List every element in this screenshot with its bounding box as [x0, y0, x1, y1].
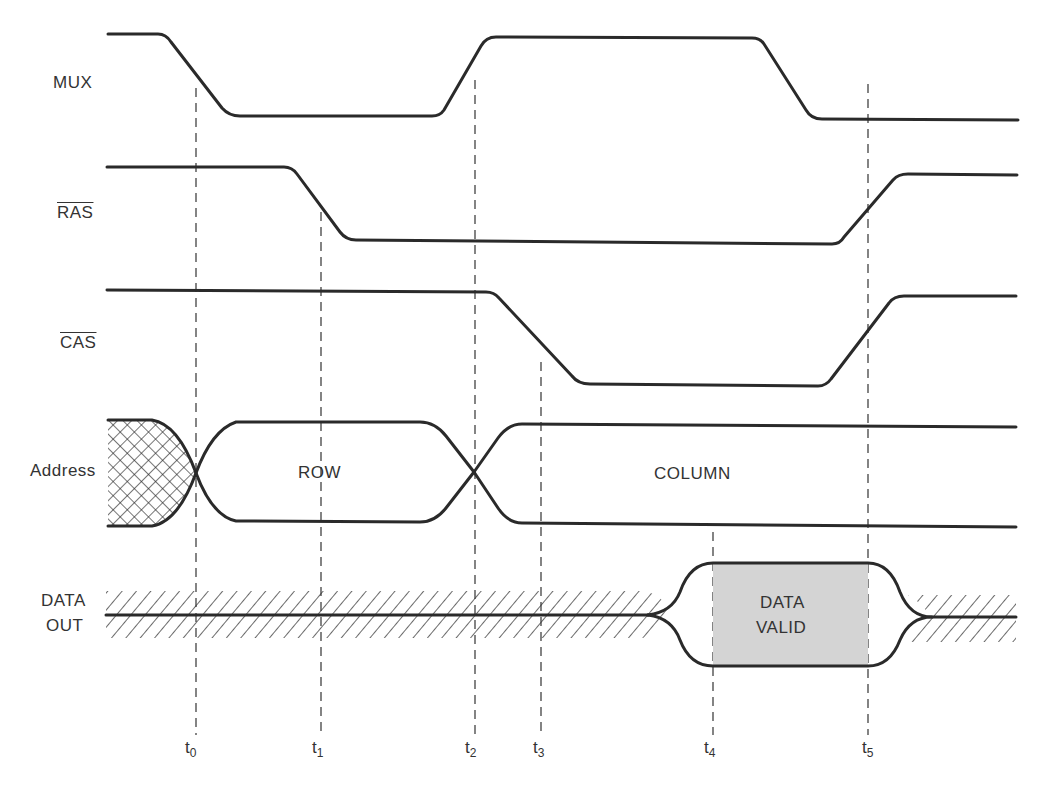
cas-waveform	[107, 290, 1016, 386]
signal-label-ras: RAS	[57, 203, 93, 223]
mux-waveform	[108, 34, 1018, 120]
time-label-t3: t3	[533, 738, 544, 760]
bus-label-row: ROW	[298, 463, 341, 483]
signal-label-address: Address	[30, 461, 96, 481]
time-label-t4: t4	[704, 738, 715, 760]
timing-diagram-canvas	[0, 0, 1042, 789]
signal-label-cas: CAS	[60, 333, 96, 353]
time-label-t2: t2	[465, 738, 476, 760]
bus-label-data-valid-line1: DATA	[760, 593, 805, 613]
address-column-lower	[474, 472, 1016, 527]
signal-label-mux: MUX	[53, 73, 92, 93]
bus-label-column: COLUMN	[654, 464, 731, 484]
address-unknown-region	[108, 420, 196, 526]
signal-label-data-out-line1: DATA	[41, 591, 86, 611]
address-column-upper	[474, 424, 1016, 472]
data-valid-region	[713, 563, 868, 666]
time-label-t1: t1	[312, 738, 323, 760]
signal-label-data-out-line2: OUT	[46, 616, 83, 636]
time-label-t5: t5	[862, 738, 873, 760]
time-label-t0: t0	[185, 738, 196, 760]
ras-waveform	[107, 167, 1017, 244]
bus-label-data-valid-line2: VALID	[756, 618, 806, 638]
